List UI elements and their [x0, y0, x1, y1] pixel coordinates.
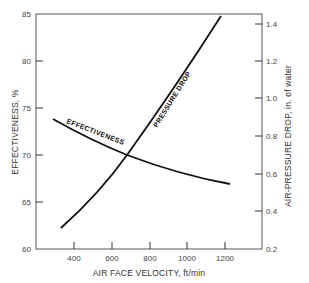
y2-tick-0.4: 0.4	[266, 207, 278, 216]
x-tick-600: 600	[105, 254, 119, 263]
y-tick-85: 85	[22, 10, 31, 19]
y-axis-title: EFFECTIVENESS, %	[10, 89, 20, 175]
right-y-axis: 0.2 0.4 0.6 0.8 1.0 1.2 1.4	[255, 20, 278, 254]
chart: 60 65 70 75 80 85 0.2 0.4 0.6 0.8 1.0 1.…	[0, 0, 309, 283]
x-axis: 400 600 800 1000 1200	[67, 242, 234, 263]
x-axis-title: AIR FACE VELOCITY, ft/min	[93, 268, 206, 278]
left-y-axis: 60 65 70 75 80 85	[22, 10, 43, 254]
y-tick-65: 65	[22, 198, 31, 207]
y-tick-80: 80	[22, 57, 31, 66]
y2-tick-0.2: 0.2	[266, 245, 278, 254]
x-tick-1000: 1000	[178, 254, 196, 263]
pressure-drop-label: PRESSURE DROP	[152, 70, 192, 129]
y-tick-75: 75	[22, 104, 31, 113]
y2-axis-title: AIR-PRESSURE DROP, in. of water	[283, 65, 293, 207]
y2-tick-1.0: 1.0	[266, 94, 278, 103]
y2-tick-1.4: 1.4	[266, 20, 278, 29]
x-tick-1200: 1200	[216, 254, 234, 263]
y-tick-70: 70	[22, 151, 31, 160]
x-tick-400: 400	[67, 254, 81, 263]
y2-tick-0.8: 0.8	[266, 132, 278, 141]
pressure-drop-curve	[61, 16, 221, 228]
y-tick-60: 60	[22, 245, 31, 254]
y2-tick-1.2: 1.2	[266, 57, 278, 66]
plot-frame	[36, 14, 262, 249]
y2-tick-0.6: 0.6	[266, 170, 278, 179]
x-tick-800: 800	[143, 254, 157, 263]
